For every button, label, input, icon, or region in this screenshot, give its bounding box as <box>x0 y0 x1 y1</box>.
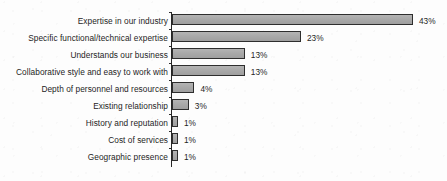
chart-row: Depth of personnel and resources4% <box>0 80 447 97</box>
chart-row: Understands our business13% <box>0 46 447 63</box>
bar <box>172 116 178 127</box>
category-label: Depth of personnel and resources <box>0 84 168 94</box>
chart-row: Collaborative style and easy to work wit… <box>0 63 447 80</box>
chart-row: History and reputation1% <box>0 114 447 131</box>
bar <box>172 31 301 42</box>
bar-value-label: 1% <box>184 152 196 162</box>
bar <box>172 99 189 110</box>
chart-row: Geographic presence1% <box>0 148 447 165</box>
bar <box>172 133 178 144</box>
category-label: Specific functional/technical expertise <box>0 33 168 43</box>
bar-value-label: 23% <box>307 33 324 43</box>
bar <box>172 14 413 25</box>
chart-row: Cost of services1% <box>0 131 447 148</box>
bar-value-label: 3% <box>195 101 207 111</box>
category-axis-line <box>171 12 172 167</box>
bar-value-label: 13% <box>251 50 268 60</box>
bar-value-label: 1% <box>184 135 196 145</box>
bar <box>172 48 245 59</box>
category-label: Existing relationship <box>0 101 168 111</box>
category-label: Geographic presence <box>0 152 168 162</box>
bar-value-label: 43% <box>419 16 436 26</box>
bar <box>172 150 178 161</box>
bar <box>172 65 245 76</box>
bar-value-label: 13% <box>251 67 268 77</box>
category-label: History and reputation <box>0 118 168 128</box>
category-label: Cost of services <box>0 135 168 145</box>
chart-row: Expertise in our industry43% <box>0 12 447 29</box>
category-label: Understands our business <box>0 50 168 60</box>
category-label: Collaborative style and easy to work wit… <box>0 67 168 77</box>
bar-chart: Expertise in our industry43%Specific fun… <box>0 0 447 181</box>
chart-row: Existing relationship3% <box>0 97 447 114</box>
chart-row: Specific functional/technical expertise2… <box>0 29 447 46</box>
category-label: Expertise in our industry <box>0 16 168 26</box>
bar-value-label: 4% <box>200 84 212 94</box>
bar-value-label: 1% <box>184 118 196 128</box>
plot-area: Expertise in our industry43%Specific fun… <box>0 0 447 181</box>
bar <box>172 82 194 93</box>
